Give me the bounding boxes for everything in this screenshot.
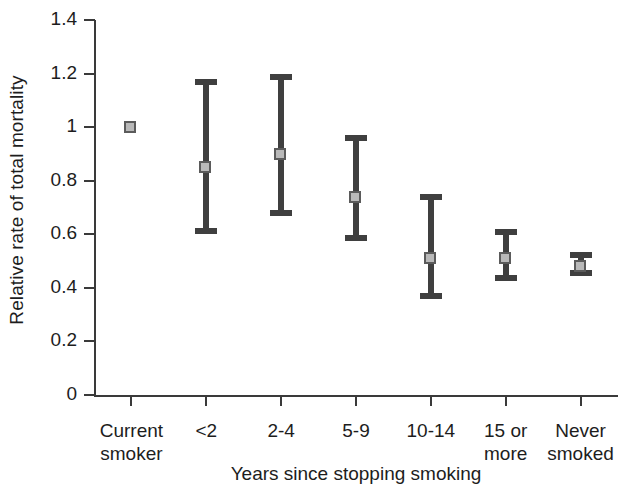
relative-mortality-error-bar-chart: Relative rate of total mortality 00.20.4… [0,0,639,489]
x-tick [505,395,507,406]
error-bar-upper-cap [420,194,442,200]
y-tick-label: 0.6 [51,222,77,244]
plot-area: 00.20.40.60.811.21.4 Currentsmoker<22-45… [94,20,618,395]
data-point-marker [274,148,286,160]
error-bar-upper-cap [195,79,217,85]
x-tick-label: Neversmoked [521,419,639,465]
error-bar-lower-cap [195,228,217,234]
x-tick [280,395,282,406]
y-tick: 0.6 [84,233,95,235]
data-point-marker [499,252,511,264]
error-bar-line [353,135,359,241]
y-tick: 0 [84,394,95,396]
error-bar-upper-cap [270,74,292,80]
data-point-marker [124,121,136,133]
y-axis-title: Relative rate of total mortality [0,0,34,400]
y-tick-label: 0.2 [51,329,77,351]
y-tick-label: 0.4 [51,276,77,298]
data-point-marker [349,191,361,203]
x-tick [430,395,432,406]
y-tick: 1.2 [84,73,95,75]
y-tick: 0.4 [84,287,95,289]
y-tick: 0.2 [84,340,95,342]
y-tick-label: 0.8 [51,169,77,191]
data-point-marker [574,260,586,272]
error-bar-lower-cap [495,275,517,281]
y-tick: 1.4 [84,19,95,21]
y-tick: 1 [84,126,95,128]
x-tick [580,395,582,406]
y-tick-label: 1.4 [51,8,77,30]
error-bar-upper-cap [570,252,592,258]
x-tick-label-line: smoked [521,442,639,465]
x-tick-label-line: Never [521,419,639,442]
y-tick-label: 1.2 [51,62,77,84]
y-tick: 0.8 [84,180,95,182]
data-point-marker [424,252,436,264]
error-bar-lower-cap [420,293,442,299]
error-bar-line [278,74,284,216]
x-tick [355,395,357,406]
x-tick-label-line: smoker [71,442,191,465]
error-bar-upper-cap [495,229,517,235]
x-tick [205,395,207,406]
error-bar-upper-cap [345,135,367,141]
error-bar-lower-cap [270,210,292,216]
error-bar-lower-cap [345,235,367,241]
x-tick [130,395,132,406]
y-tick-label: 1 [66,115,77,137]
y-tick-label: 0 [66,383,77,405]
error-bar-line [203,79,209,234]
y-axis-title-text: Relative rate of total mortality [6,75,28,324]
data-point-marker [199,161,211,173]
x-axis-title: Years since stopping smoking [94,463,618,485]
error-bar-line [428,194,434,298]
